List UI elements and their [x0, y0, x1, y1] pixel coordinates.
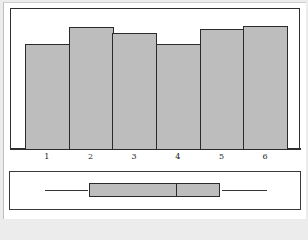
- x-tick-label: 4: [168, 152, 188, 161]
- x-tick-label: 2: [81, 152, 101, 161]
- x-tick-label: 5: [212, 152, 232, 161]
- histogram-baseline-right: [287, 148, 301, 150]
- histogram-bar-1: [25, 44, 70, 150]
- histogram-bar-4: [156, 44, 201, 150]
- boxplot-lower-whisker: [45, 190, 89, 191]
- x-tick-label: 1: [37, 152, 57, 161]
- histogram-bar-3: [112, 33, 157, 150]
- boxplot-box: [89, 183, 220, 197]
- histogram-baseline-left: [10, 148, 25, 150]
- histogram-bar-5: [200, 29, 245, 150]
- histogram-bar-6: [243, 26, 288, 150]
- boxplot-median-line: [176, 183, 178, 197]
- x-tick-label: 3: [124, 152, 144, 161]
- histogram-bar-2: [69, 27, 114, 150]
- boxplot-upper-whisker: [222, 190, 268, 191]
- x-tick-label: 6: [255, 152, 275, 161]
